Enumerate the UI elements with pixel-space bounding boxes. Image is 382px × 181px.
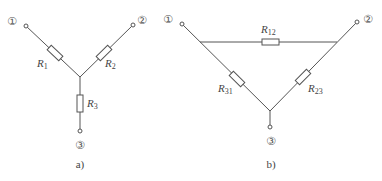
terminal-1-icon — [24, 24, 28, 28]
resistor-r1-icon — [47, 45, 63, 60]
node-label-2: ② — [137, 14, 147, 27]
terminal-1-icon — [180, 22, 184, 26]
terminal-2-icon — [355, 20, 359, 24]
caption-a: a) — [76, 158, 85, 171]
caption-b: b) — [266, 158, 276, 171]
circuit-diagrams: ① ② ③ R1 R2 R3 a) ① ② ③ R12 R31 R23 b) — [0, 0, 382, 181]
node-label-3: ③ — [266, 135, 276, 148]
diagram-a-star: ① ② ③ R1 R2 R3 a) — [7, 14, 147, 171]
terminal-2-icon — [131, 23, 135, 27]
resistor-r31-icon — [229, 71, 245, 87]
terminal-3-icon — [78, 129, 82, 133]
wire-1-3 — [182, 24, 270, 111]
label-r1: R1 — [36, 57, 48, 71]
resistor-r3-icon — [77, 95, 83, 112]
node-label-1: ① — [163, 13, 173, 26]
node-label-3: ③ — [75, 139, 85, 152]
label-r31: R31 — [217, 82, 233, 96]
wire-2-3 — [270, 22, 357, 111]
label-r2: R2 — [104, 57, 116, 71]
diagram-b-delta: ① ② ③ R12 R31 R23 b) — [163, 13, 373, 171]
resistor-r12-icon — [262, 39, 279, 45]
terminal-3-icon — [268, 125, 272, 129]
node-label-2: ② — [363, 13, 373, 26]
node-label-1: ① — [7, 15, 17, 28]
label-r3: R3 — [86, 97, 98, 111]
label-r23: R23 — [307, 82, 323, 96]
label-r12: R12 — [260, 23, 276, 37]
